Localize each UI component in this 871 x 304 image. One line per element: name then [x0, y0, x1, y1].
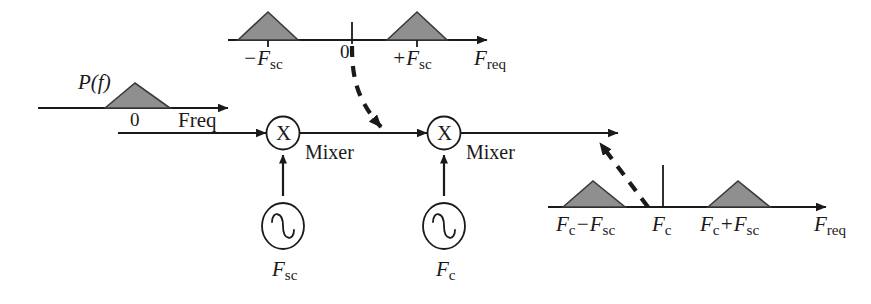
mixer-block-diagram: P(f) 0 Freq 0 −Fsc +Fsc Freq X Mixer X M… — [0, 0, 871, 304]
mixer-2-label: Mixer — [466, 142, 515, 162]
oscillator-carrier-group — [423, 203, 465, 249]
rf-tick-label-upper-sideband: Fc+Fsc — [700, 214, 759, 238]
subcarrier-tick-label-negative-sub: sc — [270, 56, 283, 72]
mixer-2-symbol: X — [437, 123, 452, 144]
subcarrier-tick-label-positive: +Fsc — [392, 48, 432, 72]
rf-carrier-label-base: F — [652, 212, 665, 236]
rf-tick-lsb-base: F — [556, 212, 569, 236]
rf-output-spectrum-group — [548, 165, 826, 207]
oscillator-carrier-label-base: F — [436, 257, 449, 281]
subcarrier-axis-label-base: F — [474, 46, 487, 70]
baseband-amplitude-label-p: P( — [78, 70, 98, 94]
oscillator-subcarrier-group — [262, 203, 304, 249]
rf-tick-lsb-base2: −F — [576, 212, 603, 236]
rf-carrier-label-sub: c — [665, 222, 672, 238]
oscillator-subcarrier-label-base: F — [272, 257, 285, 281]
mixer-1-symbol: X — [276, 123, 291, 144]
rf-tick-usb-sub: c — [713, 222, 720, 238]
dashed-arrow-subcarrier-to-mixer — [352, 46, 381, 127]
baseband-amplitude-label: P(f) — [78, 72, 111, 93]
subcarrier-tick-label-negative-base: −F — [243, 46, 270, 70]
oscillator-subcarrier-label: Fsc — [272, 259, 297, 283]
baseband-triangle — [105, 83, 170, 108]
subcarrier-tick-label-positive-sub: sc — [419, 56, 432, 72]
baseband-amplitude-label-close: ) — [104, 70, 111, 94]
rf-axis-label-sub: req — [827, 222, 846, 238]
oscillator-carrier-label-sub: c — [449, 267, 456, 283]
subcarrier-triangle-positive — [387, 12, 447, 40]
mixer-1-label: Mixer — [305, 142, 354, 162]
rf-tick-lsb-sub2: sc — [603, 222, 616, 238]
rf-tick-usb-sub2: sc — [747, 222, 760, 238]
subcarrier-tick-label-positive-base: +F — [392, 46, 419, 70]
subcarrier-tick-label-negative: −Fsc — [243, 48, 283, 72]
oscillator-subcarrier-label-sub: sc — [285, 267, 298, 283]
rf-tick-label-lower-sideband: Fc−Fsc — [556, 214, 615, 238]
baseband-axis-label: Freq — [178, 110, 217, 131]
rf-carrier-label: Fc — [652, 214, 672, 238]
subcarrier-axis-label: Freq — [474, 48, 506, 72]
rf-tick-lsb-sub: c — [569, 222, 576, 238]
baseband-spectrum-group — [38, 83, 228, 108]
rf-axis-label-base: F — [814, 212, 827, 236]
subcarrier-origin-label: 0 — [340, 42, 350, 61]
subcarrier-spectrum-group — [228, 12, 487, 47]
rf-tick-usb-base2: +F — [720, 212, 747, 236]
rf-axis-label: Freq — [814, 214, 846, 238]
rf-tick-usb-base: F — [700, 212, 713, 236]
oscillator-carrier-label: Fc — [436, 259, 456, 283]
rf-triangle-lower-sideband — [563, 181, 625, 207]
baseband-origin-label: 0 — [130, 110, 140, 129]
subcarrier-axis-label-sub: req — [487, 56, 506, 72]
rf-triangle-upper-sideband — [708, 181, 770, 207]
subcarrier-triangle-negative — [238, 12, 298, 40]
